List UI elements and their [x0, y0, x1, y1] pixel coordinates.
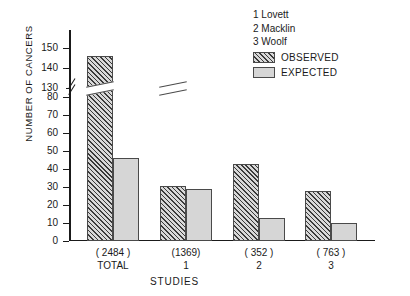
y-tick-label: 20 — [47, 200, 69, 210]
legend-series-keys: OBSERVEDEXPECTED — [253, 51, 339, 80]
legend-note: 3 Woolf — [253, 35, 339, 49]
y-tick-label: 40 — [47, 164, 69, 174]
bar-expected-1 — [186, 189, 212, 241]
bar-group — [87, 56, 139, 241]
cancer-studies-bar-chart: NUMBER OF CANCERS 0102030405060708013014… — [0, 0, 410, 296]
legend-note: 1 Lovett — [253, 8, 339, 22]
y-axis-break-marker — [63, 79, 77, 95]
x-category-label: ( 763 )3 — [286, 246, 376, 272]
y-tick-label: 0 — [52, 236, 69, 246]
y-tick-label: 30 — [47, 182, 69, 192]
y-axis-title: NUMBER OF CANCERS — [23, 0, 34, 174]
legend-note: 2 Macklin — [253, 22, 339, 36]
x-category-count: ( 763 ) — [286, 246, 376, 259]
legend-key-observed: OBSERVED — [253, 51, 339, 65]
legend-label: OBSERVED — [281, 51, 339, 65]
x-category-name: 3 — [286, 259, 376, 272]
bar-group — [160, 186, 212, 241]
bar-expected-3 — [331, 223, 357, 241]
legend-swatch-expected-icon — [253, 67, 275, 78]
bar-observed-3 — [305, 191, 331, 241]
bar-observed-2 — [233, 164, 259, 241]
x-axis-title: STUDIES — [150, 276, 199, 287]
bar-expected-2 — [259, 218, 285, 241]
y-tick-label: 70 — [47, 110, 69, 120]
chart-legend: 1 Lovett2 Macklin3 Woolf OBSERVEDEXPECTE… — [253, 8, 339, 80]
bar-group — [305, 191, 357, 241]
legend-study-notes: 1 Lovett2 Macklin3 Woolf — [253, 8, 339, 49]
y-tick-label: 60 — [47, 128, 69, 138]
bar-observed-total — [87, 56, 113, 241]
bar-observed-1 — [160, 186, 186, 241]
legend-label: EXPECTED — [281, 66, 337, 80]
legend-key-expected: EXPECTED — [253, 66, 339, 80]
bar-group — [233, 164, 285, 241]
legend-swatch-observed-icon — [253, 52, 275, 63]
y-tick-label: 150 — [41, 43, 69, 53]
y-tick-label: 50 — [47, 146, 69, 156]
y-tick-label: 140 — [41, 63, 69, 73]
y-axis-line — [69, 30, 71, 241]
y-tick-label: 10 — [47, 218, 69, 228]
bar-expected-total — [113, 158, 139, 241]
